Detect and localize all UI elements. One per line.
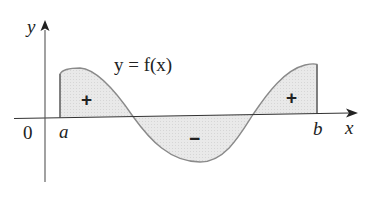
y-axis-label: y — [25, 16, 36, 37]
sign-positive-left: + — [81, 89, 92, 110]
curve-label: y = f(x) — [114, 54, 172, 76]
origin-label: 0 — [23, 122, 33, 143]
x-axis-label: x — [344, 117, 354, 138]
positive-region-right — [253, 64, 317, 115]
y-axis-arrow-icon — [41, 20, 50, 31]
sign-negative: − — [189, 128, 200, 149]
bound-b-label: b — [313, 118, 323, 139]
bound-a-label: a — [59, 121, 69, 142]
sign-positive-right: + — [286, 87, 297, 108]
y-axis — [41, 20, 50, 182]
area-under-curve-diagram: y y = f(x) 0 a b x + − + — [0, 0, 374, 197]
